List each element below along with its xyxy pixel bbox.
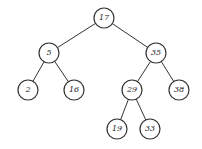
tree-node-label: 5 <box>38 42 60 64</box>
tree-node-label: 29 <box>121 79 143 101</box>
tree-node-label: 2 <box>17 79 39 101</box>
tree-node-label: 38 <box>168 79 190 101</box>
tree-node-label: 17 <box>93 7 115 29</box>
tree-node-label: 16 <box>63 79 85 101</box>
tree-diagram: 1753521629381933 <box>0 0 202 149</box>
tree-node-label: 33 <box>139 118 161 140</box>
tree-node-label: 35 <box>145 42 167 64</box>
tree-node-label: 19 <box>106 118 128 140</box>
